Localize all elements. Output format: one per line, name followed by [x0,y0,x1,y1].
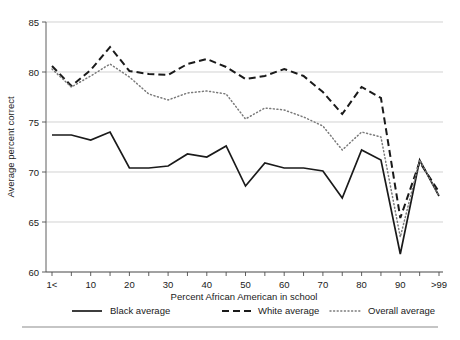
x-tick-label: 30 [163,279,174,290]
chart-legend: Black averageWhite averageOverall averag… [72,305,435,316]
y-tick-label: 75 [28,117,39,128]
series-line-black-average [52,132,439,254]
chart-figure: 606570758085 1<102030405060708090>99 Per… [0,0,460,340]
legend-label-black-average: Black average [110,305,170,316]
series-line-overall-average [52,64,439,237]
y-axis-ticks: 606570758085 [28,17,46,278]
y-tick-label: 85 [28,17,39,28]
x-axis-ticks: 1<102030405060708090>99 [47,272,447,290]
legend-label-overall-average: Overall average [368,305,435,316]
x-tick-label: 60 [279,279,290,290]
x-tick-label: 90 [395,279,406,290]
y-axis-title: Average percent correct [5,96,16,198]
x-tick-label: 70 [318,279,329,290]
x-tick-label: 80 [356,279,367,290]
series-group [52,47,439,254]
x-tick-label: >99 [431,279,447,290]
x-tick-label: 10 [85,279,96,290]
x-tick-label: 20 [124,279,135,290]
y-tick-label: 70 [28,167,39,178]
y-tick-label: 65 [28,217,39,228]
legend-label-white-average: White average [258,305,319,316]
chart-svg: 606570758085 1<102030405060708090>99 Per… [0,0,460,340]
y-tick-label: 80 [28,67,39,78]
y-tick-label: 60 [28,267,39,278]
x-axis-title: Percent African American in school [171,291,318,302]
x-tick-label: 40 [202,279,213,290]
x-tick-label: 50 [240,279,251,290]
x-tick-label: 1< [47,279,58,290]
